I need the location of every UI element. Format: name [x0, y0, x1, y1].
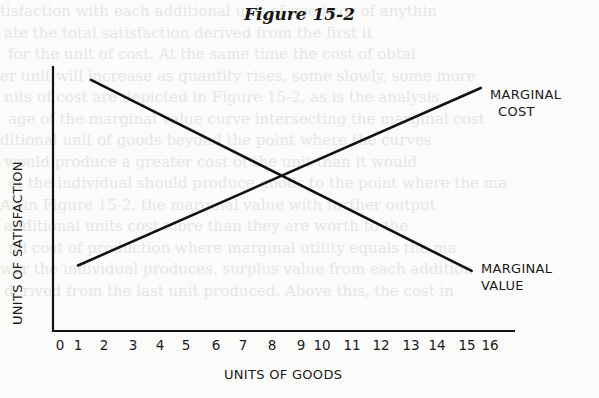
marginal-value-label: MARGINAL VALUE	[481, 260, 552, 294]
marginal-cost-label-line-1: MARGINAL	[490, 86, 561, 103]
x-tick-label: 13	[402, 337, 419, 353]
x-tick-label: 16	[481, 337, 498, 353]
y-axis-label: UNITS OF SATISFACTION	[10, 161, 25, 325]
figure-title: Figure 15-2	[0, 4, 599, 24]
x-tick-label: 10	[313, 337, 330, 353]
x-tick-label: 3	[129, 337, 138, 353]
marginal-cost-label: MARGINAL COST	[490, 86, 561, 120]
marginal-value-label-line-2: VALUE	[481, 277, 552, 294]
marginal-value-label-line-1: MARGINAL	[481, 260, 552, 277]
x-tick-label: 12	[372, 337, 389, 353]
x-tick-label: 2	[100, 337, 109, 353]
x-tick-label: 14	[428, 337, 445, 353]
x-tick-label: 5	[182, 337, 191, 353]
x-tick-label: 7	[239, 337, 248, 353]
x-tick-label: 8	[268, 337, 277, 353]
x-tick-label: 6	[212, 337, 221, 353]
marginal-value-line	[91, 80, 472, 271]
marginal-cost-label-line-2: COST	[490, 103, 561, 120]
x-axis-label: UNITS OF GOODS	[224, 367, 342, 382]
x-tick-label: 11	[343, 337, 360, 353]
x-tick-label: 9	[297, 337, 306, 353]
x-tick-label: 4	[156, 337, 165, 353]
x-tick-label: 15	[458, 337, 475, 353]
marginal-cost-line	[78, 88, 481, 265]
x-tick-label: 0	[56, 337, 65, 353]
x-tick-label: 1	[74, 337, 83, 353]
